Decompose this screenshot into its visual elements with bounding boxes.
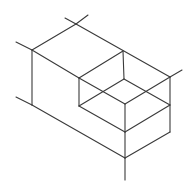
notch-back-vertical xyxy=(123,51,124,79)
notch-lower-left xyxy=(79,106,125,132)
ext-D xyxy=(170,70,182,77)
notch-floor-diag-4 xyxy=(125,77,170,104)
ext-A-left xyxy=(65,18,76,24)
top-front-edge xyxy=(32,50,79,78)
ext-A-right xyxy=(76,15,88,24)
bottom-left-edge xyxy=(32,105,125,158)
diagram-canvas xyxy=(0,0,190,194)
notch-floor-diag-2 xyxy=(79,79,124,106)
ext-B xyxy=(16,42,32,50)
top-left-edge xyxy=(32,24,76,50)
notch-top-edge xyxy=(79,51,123,78)
bottom-right-edge xyxy=(125,132,170,158)
isometric-block-drawing xyxy=(0,0,190,194)
notch-lower-right xyxy=(125,105,170,132)
ext-L xyxy=(16,97,32,105)
